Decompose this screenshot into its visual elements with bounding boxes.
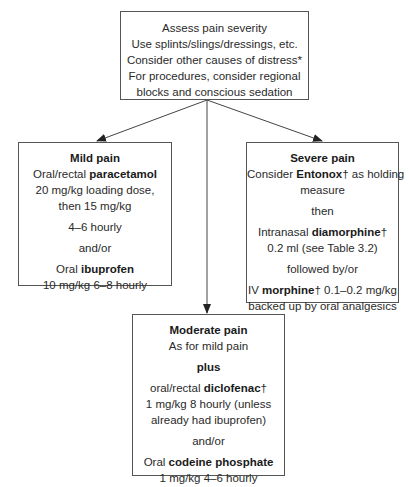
top-line-1: Assess pain severity bbox=[121, 20, 308, 36]
mild-dose-2: then 15 mg/kg bbox=[19, 198, 171, 214]
moderate-plus: plus bbox=[197, 361, 221, 373]
moderate-route: oral/rectal bbox=[150, 382, 204, 394]
severe-then: then bbox=[247, 203, 398, 219]
severe-pain-box: Severe pain Consider Entonox† as holding… bbox=[246, 142, 399, 303]
mild-route-2: Oral bbox=[56, 263, 81, 275]
severe-dose-2: † 0.1–0.2 mg/kg bbox=[314, 284, 396, 296]
severe-followed: followed by/or bbox=[247, 261, 398, 277]
severe-text-1: Consider bbox=[247, 168, 296, 180]
drug-entonox: Entonox bbox=[296, 168, 342, 180]
drug-paracetamol: paracetamol bbox=[89, 168, 157, 180]
drug-diclofenac: diclofenac bbox=[204, 382, 261, 394]
moderate-dose-2: already had ibuprofen) bbox=[133, 412, 284, 428]
moderate-dose-3: 1 mg/kg 4–6 hourly bbox=[133, 470, 284, 486]
severe-measure: measure bbox=[247, 182, 398, 198]
arrow-to-mild bbox=[97, 100, 207, 141]
mild-dose-1: 20 mg/kg loading dose, bbox=[19, 182, 171, 198]
mild-pain-box: Mild pain Oral/rectal paracetamol 20 mg/… bbox=[18, 142, 172, 286]
moderate-title: Moderate pain bbox=[170, 324, 248, 336]
severe-text-1b: † as holding bbox=[342, 168, 404, 180]
drug-ibuprofen: ibuprofen bbox=[81, 263, 134, 275]
drug-morphine: morphine bbox=[262, 284, 314, 296]
severe-dose-1: 0.2 ml (see Table 3.2) bbox=[247, 240, 398, 256]
mild-dose-3: 10 mg/kg 6–8 hourly bbox=[19, 277, 171, 293]
moderate-pain-box: Moderate pain As for mild pain plus oral… bbox=[132, 314, 285, 476]
top-line-3: Consider other causes of distress* bbox=[121, 52, 308, 68]
top-line-4: For procedures, consider regional bbox=[121, 68, 308, 84]
severe-route-2: IV bbox=[248, 284, 262, 296]
severe-title: Severe pain bbox=[290, 152, 355, 164]
moderate-dose-1: 1 mg/kg 8 hourly (unless bbox=[133, 396, 284, 412]
moderate-as-mild: As for mild pain bbox=[133, 338, 284, 354]
top-line-2: Use splints/slings/dressings, etc. bbox=[121, 36, 308, 52]
severe-route: Intranasal bbox=[258, 226, 312, 238]
moderate-route-2: Oral bbox=[144, 456, 169, 468]
mild-route: Oral/rectal bbox=[33, 168, 89, 180]
arrow-to-severe bbox=[207, 100, 322, 141]
assess-pain-box: Assess pain severity Use splints/slings/… bbox=[120, 11, 309, 100]
moderate-andor: and/or bbox=[133, 433, 284, 449]
dagger: † bbox=[381, 226, 387, 238]
dagger: † bbox=[261, 382, 267, 394]
drug-diamorphine: diamorphine bbox=[312, 226, 381, 238]
mild-andor: and/or bbox=[19, 240, 171, 256]
top-line-5: blocks and conscious sedation bbox=[121, 84, 308, 100]
mild-title: Mild pain bbox=[70, 152, 120, 164]
severe-backup: backed up by oral analgesics bbox=[247, 298, 398, 314]
mild-frequency: 4–6 hourly bbox=[19, 219, 171, 235]
drug-codeine: codeine phosphate bbox=[169, 456, 274, 468]
